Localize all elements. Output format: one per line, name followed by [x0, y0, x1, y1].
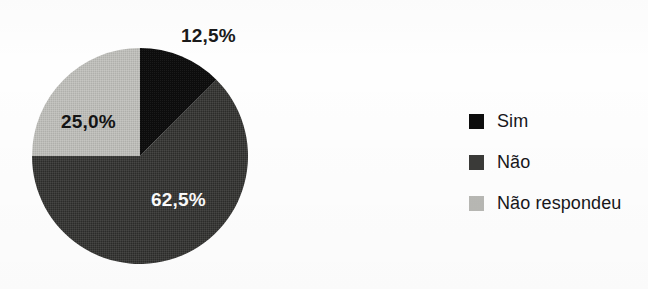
legend-swatch-sim-icon: [469, 114, 484, 129]
legend-label-sim: Sim: [497, 111, 528, 132]
legend-swatch-nao-respondeu-icon: [469, 196, 484, 211]
pie-chart: [31, 47, 249, 265]
pie-slice-nao-respondeu: [32, 48, 140, 156]
legend-item-nao: Não: [469, 142, 641, 183]
pie-label-nao-respondeu: 25,0%: [61, 111, 116, 133]
pie-svg: [31, 47, 249, 265]
legend-label-nao: Não: [497, 152, 530, 173]
legend-item-sim: Sim: [469, 101, 641, 142]
legend-swatch-nao-icon: [469, 155, 484, 170]
pie-label-nao: 62,5%: [151, 189, 206, 211]
pie-label-sim: 12,5%: [181, 25, 236, 47]
chart-legend: Sim Não Não respondeu: [469, 101, 641, 224]
legend-label-nao-respondeu: Não respondeu: [497, 193, 621, 214]
pie-chart-figure: 12,5% 25,0% 62,5% Sim Não Não respondeu: [0, 0, 648, 289]
legend-item-nao-respondeu: Não respondeu: [469, 183, 641, 224]
